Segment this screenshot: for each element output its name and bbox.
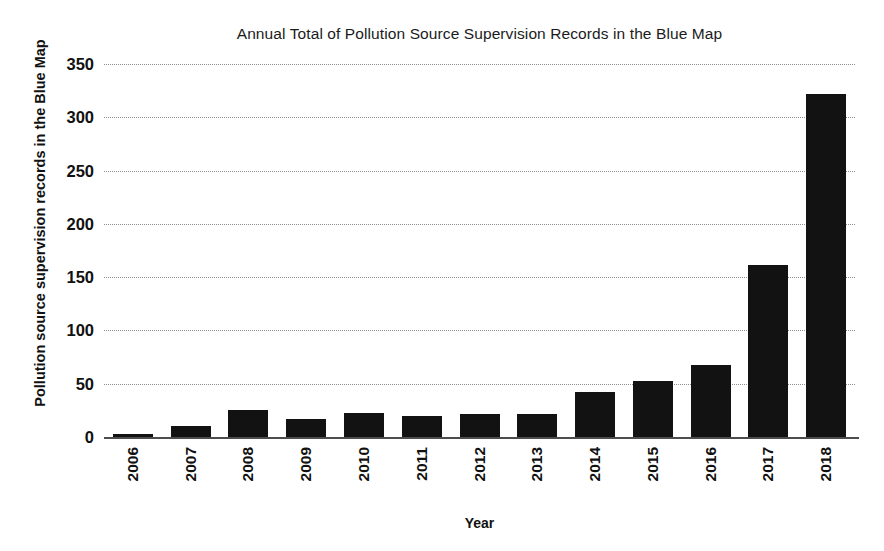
- x-tick-label-2014: 2014: [566, 447, 624, 509]
- x-tick-label-2012: 2012: [451, 447, 509, 509]
- x-tick-label-2010: 2010: [335, 447, 393, 509]
- x-tick-label-2016: 2016: [682, 447, 740, 509]
- x-tick-label-2008: 2008: [219, 447, 277, 509]
- y-tick-label-200: 200: [36, 214, 94, 233]
- x-tick-text: 2007: [182, 447, 200, 481]
- x-tick-label-2015: 2015: [624, 447, 682, 509]
- x-tick-label-2013: 2013: [508, 447, 566, 509]
- x-tick-label-2011: 2011: [393, 447, 451, 509]
- bar-2011[interactable]: [402, 416, 442, 437]
- bar-2009[interactable]: [286, 419, 326, 437]
- gridline-100: [104, 330, 855, 331]
- x-axis-line: [104, 437, 859, 439]
- gridline-250: [104, 171, 855, 172]
- x-tick-label-2018: 2018: [797, 447, 855, 509]
- y-tick-label-150: 150: [36, 268, 94, 287]
- x-tick-label-2017: 2017: [739, 447, 797, 509]
- y-tick-label-350: 350: [36, 55, 94, 74]
- x-tick-label-2006: 2006: [104, 447, 162, 509]
- gridline-150: [104, 277, 855, 278]
- bar-2008[interactable]: [228, 410, 268, 437]
- bar-2010[interactable]: [344, 413, 384, 438]
- x-axis-title: Year: [104, 515, 855, 531]
- y-tick-label-100: 100: [36, 321, 94, 340]
- bar-2018[interactable]: [806, 94, 846, 437]
- x-tick-text: 2010: [355, 447, 373, 481]
- bar-2015[interactable]: [633, 381, 673, 437]
- x-tick-text: 2008: [239, 447, 257, 481]
- x-tick-text: 2015: [644, 447, 662, 481]
- x-tick-text: 2018: [817, 447, 835, 481]
- bar-2013[interactable]: [517, 414, 557, 437]
- x-tick-label-2009: 2009: [277, 447, 335, 509]
- x-tick-text: 2016: [702, 447, 720, 481]
- bar-2017[interactable]: [748, 265, 788, 437]
- x-tick-text: 2011: [413, 447, 431, 481]
- bar-chart-figure: Annual Total of Pollution Source Supervi…: [0, 0, 884, 551]
- x-tick-text: 2013: [528, 447, 546, 481]
- x-tick-text: 2009: [297, 447, 315, 481]
- y-tick-label-50: 50: [36, 374, 94, 393]
- chart-title: Annual Total of Pollution Source Supervi…: [104, 25, 855, 43]
- x-tick-text: 2014: [586, 447, 604, 481]
- y-tick-label-250: 250: [36, 161, 94, 180]
- y-tick-label-0: 0: [36, 428, 94, 447]
- gridline-50: [104, 384, 855, 385]
- bar-2016[interactable]: [691, 365, 731, 437]
- bar-2014[interactable]: [575, 392, 615, 437]
- gridline-300: [104, 117, 855, 118]
- x-tick-text: 2006: [124, 447, 142, 481]
- bar-2007[interactable]: [171, 426, 211, 437]
- y-tick-label-300: 300: [36, 108, 94, 127]
- bar-2012[interactable]: [460, 414, 500, 437]
- x-tick-label-2007: 2007: [162, 447, 220, 509]
- gridline-350: [104, 64, 855, 65]
- x-tick-text: 2017: [759, 447, 777, 481]
- x-tick-text: 2012: [471, 447, 489, 481]
- plot-area: [104, 64, 855, 437]
- gridline-200: [104, 224, 855, 225]
